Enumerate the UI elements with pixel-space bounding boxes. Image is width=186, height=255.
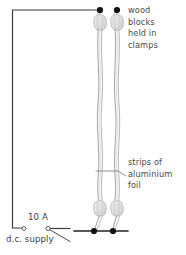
supply-circuit-wire <box>13 10 101 228</box>
bottom-left-wood-block <box>94 201 107 217</box>
left-foil-strip <box>97 29 102 208</box>
bottom-right-wood-block <box>111 201 124 217</box>
bottom-right-terminal <box>110 228 116 234</box>
diagram-canvas: wood blocks held in clamps strips of alu… <box>0 0 186 255</box>
top-left-wood-block <box>94 15 107 31</box>
top-right-wood-block <box>111 15 124 31</box>
label-strips-of-aluminium-foil: strips of aluminium foil <box>128 157 172 192</box>
label-wood-blocks: wood blocks held in clamps <box>128 5 158 51</box>
top-left-terminal <box>97 7 103 13</box>
top-right-terminal <box>114 7 120 13</box>
right-foil-strip <box>115 29 120 208</box>
switch-left-terminal <box>22 227 26 231</box>
label-current-rating: 10 A <box>28 212 48 224</box>
bottom-left-terminal <box>91 228 97 234</box>
bottom-lead-wires <box>94 216 120 231</box>
label-dc-supply: d.c. supply <box>6 234 54 246</box>
top-terminals <box>97 7 120 13</box>
